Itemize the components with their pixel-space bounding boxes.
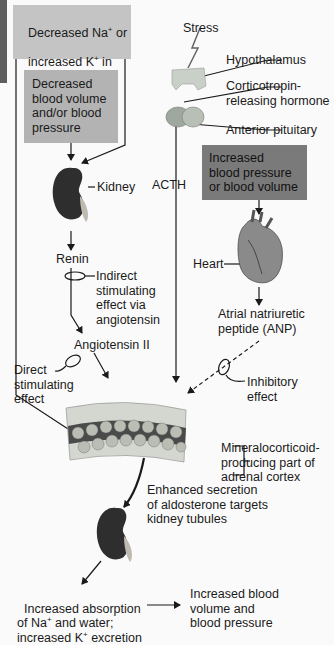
kidney-illustration-bottom	[97, 508, 132, 562]
label-kidney: Kidney	[97, 180, 135, 195]
label-absorption: Increased absorptionof Na+ and water;inc…	[17, 587, 142, 645]
label-acth: ACTH	[152, 178, 186, 193]
arrow-to-kidney	[82, 59, 125, 163]
hypothalamus-illustration	[166, 68, 206, 127]
label-hypothalamus: Hypothalamus	[226, 53, 306, 68]
kidney-illustration-top	[53, 168, 88, 222]
label-heart: Heart	[193, 257, 224, 272]
heart-illustration	[238, 210, 283, 283]
label-aldosterone: Enhanced secretion of aldosterone target…	[147, 483, 268, 527]
label-inhibitory-effect: Inhibitory effect	[247, 375, 298, 404]
label-angiotensin-ii: Angiotensin II	[74, 338, 150, 353]
label-anp: Atrial natriuretic peptide (ANP)	[218, 307, 305, 336]
label-crh: Corticotropin- releasing hormone	[226, 79, 330, 108]
label-stress: Stress	[183, 21, 218, 36]
adrenal-cortex-illustration	[66, 402, 186, 462]
label-adrenal-cortex: Mineralocorticoid- producing part of adr…	[221, 441, 320, 485]
label-anterior-pituitary: Anterior pituitary	[226, 123, 317, 138]
label-renin: Renin	[56, 252, 89, 267]
arrow-aldosterone	[124, 458, 144, 507]
label-direct-effect: Direct stimulating effect	[14, 363, 74, 407]
arrow-kidney-to-absorption	[82, 561, 101, 584]
arrow-renin-to-angiotensin	[71, 268, 82, 333]
label-indirect-effect: Indirect stimulating effect via angioten…	[96, 269, 160, 327]
label-result: Increased blood volume and blood pressur…	[190, 587, 279, 631]
arrow-angiotensin-to-adrenal	[94, 353, 108, 378]
